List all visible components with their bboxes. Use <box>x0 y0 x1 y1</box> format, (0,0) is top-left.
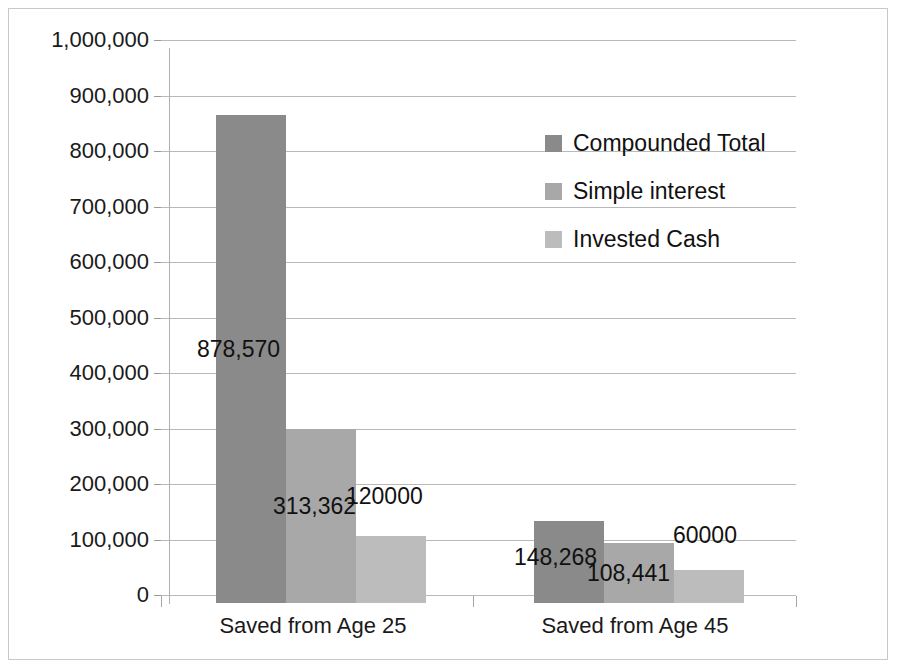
legend-item: Compounded Total <box>545 119 785 167</box>
bar-data-label: 878,570 <box>197 338 280 361</box>
y-axis-tick-label: 800,000 <box>9 140 149 162</box>
bar-data-label: 60000 <box>673 524 737 547</box>
category-separator-tick <box>161 596 162 607</box>
bar <box>674 570 744 603</box>
category-label: Saved from Age 45 <box>525 613 745 639</box>
legend-item: Invested Cash <box>545 215 785 263</box>
legend-label: Compounded Total <box>573 132 766 155</box>
bar-data-label: 108,441 <box>587 562 670 585</box>
legend-color-swatch-icon <box>545 183 562 200</box>
y-axis-labels: 1,000,000900,000800,000700,000600,000500… <box>9 9 157 670</box>
category-separator-tick <box>473 596 474 607</box>
legend-label: Invested Cash <box>573 228 720 251</box>
chart-frame: 1,000,000900,000800,000700,000600,000500… <box>8 8 888 660</box>
y-axis-tick-label: 700,000 <box>9 196 149 218</box>
legend-color-swatch-icon <box>545 231 562 248</box>
bar-data-label: 148,268 <box>514 546 597 569</box>
bar-data-label: 313,362 <box>273 495 356 518</box>
y-axis-tick-label: 600,000 <box>9 251 149 273</box>
legend-item: Simple interest <box>545 167 785 215</box>
y-axis-tick-label: 900,000 <box>9 85 149 107</box>
legend-label: Simple interest <box>573 180 725 203</box>
y-axis-tick-label: 500,000 <box>9 307 149 329</box>
bar <box>356 536 426 603</box>
gridline <box>161 40 796 41</box>
bar-data-label: 120000 <box>346 485 423 508</box>
legend-color-swatch-icon <box>545 135 562 152</box>
y-axis-tick-label: 400,000 <box>9 362 149 384</box>
y-axis-tick-label: 200,000 <box>9 473 149 495</box>
y-axis-tick-label: 300,000 <box>9 418 149 440</box>
y-axis-tick-label: 0 <box>9 584 149 606</box>
category-label: Saved from Age 25 <box>203 613 423 639</box>
y-axis-tick-label: 1,000,000 <box>9 29 149 51</box>
y-axis-tick-label: 100,000 <box>9 529 149 551</box>
category-separator-tick <box>796 596 797 607</box>
chart-legend: Compounded TotalSimple interestInvested … <box>545 119 785 263</box>
